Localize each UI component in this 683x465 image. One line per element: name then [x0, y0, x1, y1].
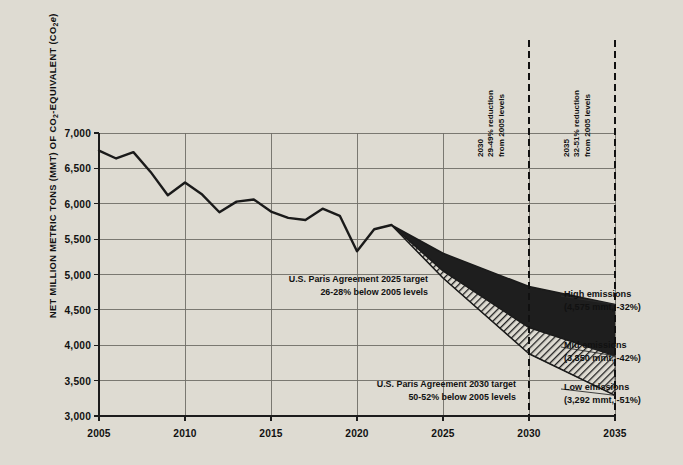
legend-high-value: (4,575 mmt, -32%): [564, 301, 641, 314]
y-axis-tick-label: 3,500: [31, 375, 91, 386]
y-axis-tick-label: 4,000: [31, 340, 91, 351]
x-axis-tick-label: 2030: [499, 428, 559, 439]
x-axis-tick-label: 2020: [327, 428, 387, 439]
legend-high-label: High emissions: [564, 288, 641, 301]
x-axis-tick-label: 2025: [413, 428, 473, 439]
y-axis-tick-label: 5,000: [31, 269, 91, 280]
marker-note-2030-line2: from 2005 levels: [497, 90, 507, 157]
y-axis-tick-label: 7,000: [31, 128, 91, 139]
marker-note-2030-year: 2030: [476, 90, 486, 157]
legend-item-mid-emissions: Mid emissions (3,850 mmt, -42%): [564, 339, 641, 365]
y-axis-tick-label: 5,500: [31, 234, 91, 245]
legend-item-low-emissions: Low emissions (3,292 mmt, -51%): [564, 381, 641, 407]
y-axis-tick-label: 6,000: [31, 198, 91, 209]
annotation-paris-2030-target: U.S. Paris Agreement 2030 target 50-52% …: [258, 378, 516, 404]
annotation-paris-2030-line1: U.S. Paris Agreement 2030 target: [258, 378, 516, 391]
legend-low-value: (3,292 mmt, -51%): [564, 394, 641, 407]
legend-mid-label: Mid emissions: [564, 339, 641, 352]
legend-item-high-emissions: High emissions (4,575 mmt, -32%): [564, 288, 641, 314]
annotation-paris-2025-line2: 26-28% below 2005 levels: [178, 286, 428, 299]
marker-note-2035-line2: from 2005 levels: [583, 90, 593, 157]
marker-note-2035-line1: 32-51% reduction: [572, 90, 582, 157]
x-axis-tick-label: 2010: [155, 428, 215, 439]
annotation-paris-2025-line1: U.S. Paris Agreement 2025 target: [178, 273, 428, 286]
x-axis-tick-label: 2035: [585, 428, 645, 439]
annotation-paris-2025-target: U.S. Paris Agreement 2025 target 26-28% …: [178, 273, 428, 299]
marker-note-2030-line1: 29-49% reduction: [486, 90, 496, 157]
marker-note-2035: 2035 32-51% reduction from 2005 levels: [562, 90, 593, 157]
y-axis-tick-label: 4,500: [31, 304, 91, 315]
y-axis-tick-label: 3,000: [31, 411, 91, 422]
marker-note-2035-year: 2035: [562, 90, 572, 157]
y-axis-tick-label: 6,500: [31, 163, 91, 174]
chart-canvas: NET MILLION METRIC TONS (MMT) OF CO2-EQU…: [0, 0, 683, 465]
annotation-paris-2030-line2: 50-52% below 2005 levels: [258, 391, 516, 404]
x-axis-tick-label: 2005: [69, 428, 129, 439]
x-axis-tick-label: 2015: [241, 428, 301, 439]
marker-note-2030: 2030 29-49% reduction from 2005 levels: [476, 90, 507, 157]
legend-mid-value: (3,850 mmt, -42%): [564, 352, 641, 365]
legend-low-label: Low emissions: [564, 381, 641, 394]
